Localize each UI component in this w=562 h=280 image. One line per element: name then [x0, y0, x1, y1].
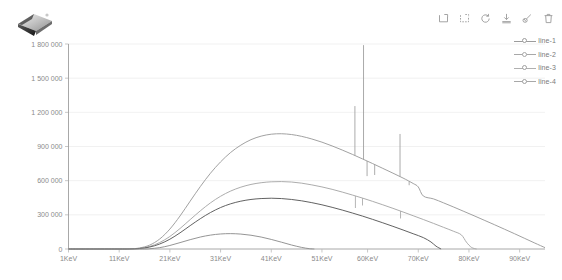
chart-canvas[interactable]: 0300 000600 000900 0001 200 0001 500 000…: [0, 0, 562, 280]
x-tick-label: 51KeV: [311, 255, 332, 262]
x-tick-label: 70KeV: [408, 255, 429, 262]
x-tick-label: 21KeV: [159, 255, 180, 262]
x-tick-label: 90KeV: [509, 255, 530, 262]
x-tick-label: 41KeV: [261, 255, 282, 262]
y-tick-label: 1 500 000: [31, 75, 62, 82]
x-tick-label: 60KeV: [357, 255, 378, 262]
x-tick-label: 1KeV: [60, 255, 77, 262]
series-line-4: [69, 234, 315, 249]
x-tick-label: 11KeV: [109, 255, 130, 262]
series-line: [69, 134, 546, 249]
series-line: [69, 182, 477, 249]
series-line-1: [69, 45, 546, 249]
y-tick-label: 0: [59, 246, 63, 253]
line-chart: 0300 000600 000900 0001 200 0001 500 000…: [0, 0, 562, 280]
y-axis: 0300 000600 000900 0001 200 0001 500 000…: [31, 41, 68, 253]
y-tick-label: 300 000: [37, 211, 62, 218]
y-tick-label: 900 000: [37, 143, 62, 150]
series-line-2: [69, 182, 477, 249]
grid-lines: [69, 44, 546, 215]
x-tick-label: 80KeV: [458, 255, 479, 262]
series-paths: [69, 45, 546, 249]
y-tick-label: 600 000: [37, 177, 62, 184]
y-tick-label: 1 800 000: [31, 41, 62, 48]
x-tick-label: 31KeV: [210, 255, 231, 262]
x-axis: 1KeV11KeV21KeV31KeV41KeV51KeV60KeV70KeV8…: [60, 249, 545, 262]
series-line: [69, 234, 315, 249]
chart-app: line-1 line-2 line-3 line-4: [0, 0, 562, 280]
y-tick-label: 1 200 000: [31, 109, 62, 116]
